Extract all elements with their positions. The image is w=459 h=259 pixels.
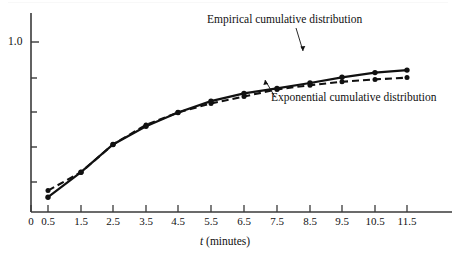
x-tick-label-9-5: 9.5 <box>330 216 354 227</box>
x-tick-label-7-5: 7.5 <box>265 216 289 227</box>
y-tick-marks <box>31 42 39 182</box>
callout-leader-empirical <box>296 28 305 51</box>
figure-container: 1.0 0 0.5 1.5 2.5 3.5 4.5 5.5 6.5 7.5 8.… <box>0 0 459 259</box>
x-tick-label-2-5: 2.5 <box>101 216 125 227</box>
series-empirical-markers <box>45 67 409 200</box>
x-tick-label-10-5: 10.5 <box>361 216 389 227</box>
annotation-empirical: Empirical cumulative distribution <box>207 14 362 26</box>
x-axis-title: t (minutes) <box>200 236 250 248</box>
annotation-exponential: Exponential cumulative distribution <box>271 92 436 104</box>
x-tick-marks <box>31 205 407 212</box>
x-tick-label-8-5: 8.5 <box>298 216 322 227</box>
x-tick-label-1-5: 1.5 <box>69 216 93 227</box>
x-tick-label-3-5: 3.5 <box>134 216 158 227</box>
x-tick-label-5-5: 5.5 <box>199 216 223 227</box>
x-axis-title-unit: (minutes) <box>203 235 250 247</box>
x-tick-label-4-5: 4.5 <box>166 216 190 227</box>
series-empirical-line <box>48 70 407 197</box>
x-tick-label-11-5: 11.5 <box>393 216 421 227</box>
y-tick-label-1: 1.0 <box>8 36 22 48</box>
x-tick-label-0-5: 0.5 <box>36 216 60 227</box>
x-tick-label-6-5: 6.5 <box>232 216 256 227</box>
